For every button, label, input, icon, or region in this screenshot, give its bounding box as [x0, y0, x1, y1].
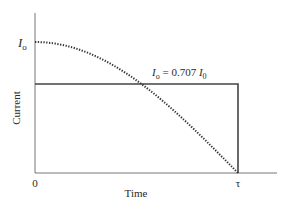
- y-tick-i0: Io: [17, 35, 27, 52]
- rms-rectangle: [35, 84, 238, 173]
- x-tick-tau: τ: [236, 177, 241, 189]
- x-tick-origin: 0: [32, 177, 38, 189]
- sinusoid-curve: [35, 42, 238, 173]
- y-axis-label: Current: [10, 91, 22, 125]
- chart-canvas: Io Io = 0.707 I0 Current 0 τ Time: [0, 0, 290, 201]
- rms-annotation: Io = 0.707 I0: [151, 66, 207, 81]
- x-axis-label: Time: [125, 187, 148, 199]
